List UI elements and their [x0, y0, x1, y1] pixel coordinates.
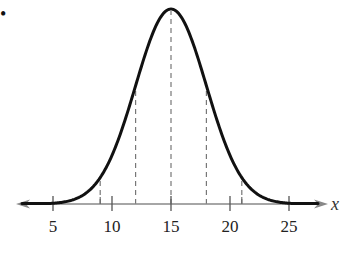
- dashed-reference-lines: [100, 11, 242, 204]
- tick-label-25: 25: [281, 217, 298, 236]
- tick-label-10: 10: [104, 217, 121, 236]
- normal-distribution-chart: 510152025 x: [0, 0, 348, 253]
- tick-label-20: 20: [222, 217, 239, 236]
- normal-curve: [22, 9, 318, 204]
- x-axis-tick-labels: 510152025: [49, 217, 298, 236]
- tick-label-5: 5: [49, 217, 58, 236]
- x-axis-label: x: [330, 194, 339, 214]
- tick-label-15: 15: [163, 217, 180, 236]
